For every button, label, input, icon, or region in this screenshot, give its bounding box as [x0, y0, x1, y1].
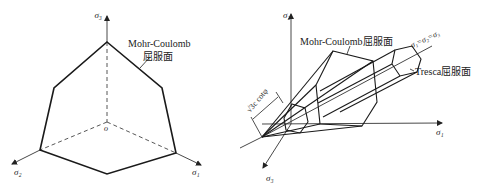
sigma2-label: σ₂	[14, 167, 22, 177]
dimension-annotation: √3c cotφ	[245, 87, 283, 137]
mohr-coulomb-label-line2: 屈服面	[143, 51, 173, 62]
mohr-coulomb-label: Mohr-Coulomb屈服面	[300, 36, 393, 47]
sigma1-label: σ₁	[436, 127, 444, 137]
sigma3-label: σ₃	[94, 10, 102, 20]
sigma1-label: σ₁	[192, 167, 200, 177]
sigma2-axis-outer	[12, 150, 40, 164]
sigma1-axis-dashed	[107, 122, 176, 153]
sigma1-axis	[262, 123, 442, 124]
left-figure-mohr-coulomb-deviatoric: σ₃ σ₂ σ₁ o Mohr-Coulomb 屈服面	[12, 10, 201, 177]
sigma2-label: σ₂	[283, 10, 291, 20]
tresca-prism	[318, 46, 421, 117]
mohr-leader	[347, 46, 350, 54]
sigma1-axis-outer	[176, 153, 201, 165]
origin-label: o	[104, 124, 108, 133]
dimension-label: √3c cotφ	[245, 87, 270, 115]
hydrostatic-axis-label: σ₁=σ₂=σ₃	[409, 28, 441, 49]
sigma3-label: σ₃	[266, 173, 274, 183]
sigma2-axis-dashed	[40, 122, 107, 150]
tresca-leader	[410, 69, 414, 71]
hydrostatic-axis-extension	[240, 137, 262, 148]
yield-surface-diagram: σ₃ σ₂ σ₁ o Mohr-Coulomb 屈服面	[0, 0, 484, 196]
mohr-coulomb-label-line1: Mohr-Coulomb	[128, 38, 191, 49]
right-figure-principal-stress-space: √3c cotφ σ₂ σ₁ σ₃ Mohr-Coulomb屈服面 Tresca…	[240, 10, 471, 183]
tresca-label: Tresca屈服面	[415, 66, 471, 77]
